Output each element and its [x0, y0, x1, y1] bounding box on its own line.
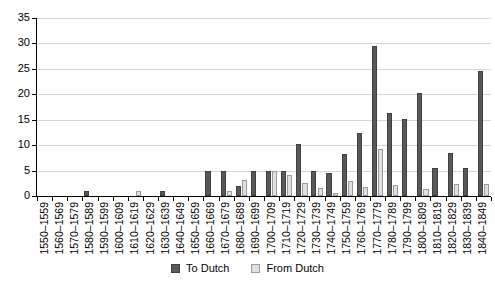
bar-from-dutch — [363, 187, 368, 196]
bar-group — [188, 18, 203, 196]
bar-from-dutch — [287, 175, 292, 196]
bar-to-dutch — [296, 144, 301, 196]
x-tick-label: 1690–1699 — [250, 202, 261, 255]
x-tick-label: 1840–1849 — [477, 202, 488, 255]
chart-legend: To DutchFrom Dutch — [0, 262, 495, 274]
bar-to-dutch — [266, 171, 271, 196]
x-tick-label: 1580–1589 — [84, 202, 95, 255]
bar-group — [203, 18, 218, 196]
x-tick-mark — [67, 197, 68, 201]
bar-group — [173, 18, 188, 196]
x-tick-mark — [340, 197, 341, 201]
bar-to-dutch — [160, 191, 165, 196]
x-tick-mark — [294, 197, 295, 201]
bar-group — [249, 18, 264, 196]
legend-label: From Dutch — [266, 262, 323, 274]
bar-to-dutch — [342, 154, 347, 196]
x-tick-mark — [249, 197, 250, 201]
bar-group — [355, 18, 370, 196]
x-tick-mark — [128, 197, 129, 201]
bar-to-dutch — [387, 113, 392, 196]
x-tick-mark — [446, 197, 447, 201]
x-tick-mark — [143, 197, 144, 201]
bar-group — [82, 18, 97, 196]
x-tick-label: 1710–1719 — [281, 202, 292, 255]
bar-group — [400, 18, 415, 196]
x-tick-mark — [173, 197, 174, 201]
x-tick-label: 1680–1689 — [235, 202, 246, 255]
bar-group — [128, 18, 143, 196]
bar-from-dutch — [454, 184, 459, 196]
legend-label: To Dutch — [186, 262, 229, 274]
y-tick-label: 15 — [4, 114, 30, 125]
bar-group — [67, 18, 82, 196]
x-tick-mark — [219, 197, 220, 201]
bar-group — [385, 18, 400, 196]
x-tick-label: 1770–1779 — [372, 202, 383, 255]
bar-group — [476, 18, 491, 196]
bar-from-dutch — [393, 185, 398, 196]
bar-group — [446, 18, 461, 196]
x-tick-mark — [203, 197, 204, 201]
bar-group — [264, 18, 279, 196]
x-tick-label: 1760–1769 — [356, 202, 367, 255]
y-tick-label: 35 — [4, 12, 30, 23]
x-tick-label: 1600–1609 — [114, 202, 125, 255]
x-tick-label: 1620–1629 — [145, 202, 156, 255]
x-tick-label: 1830–1839 — [462, 202, 473, 255]
x-tick-label: 1700–1709 — [266, 202, 277, 255]
x-tick-mark — [461, 197, 462, 201]
bar-to-dutch — [326, 173, 331, 196]
bar-from-dutch — [484, 184, 489, 196]
bar-to-dutch — [432, 168, 437, 196]
legend-item-from[interactable]: From Dutch — [251, 262, 323, 274]
x-tick-mark — [234, 197, 235, 201]
x-tick-mark — [279, 197, 280, 201]
bar-to-dutch — [357, 133, 362, 196]
x-tick-mark — [98, 197, 99, 201]
x-tick-label: 1570–1579 — [69, 202, 80, 255]
bar-to-dutch — [463, 168, 468, 196]
bar-series-layer — [37, 18, 491, 196]
y-tick-label: 0 — [4, 190, 30, 201]
y-tick-label: 30 — [4, 37, 30, 48]
x-tick-mark — [309, 197, 310, 201]
x-tick-mark — [400, 197, 401, 201]
x-tick-mark — [370, 197, 371, 201]
x-tick-mark — [188, 197, 189, 201]
bar-to-dutch — [236, 186, 241, 196]
bar-to-dutch — [311, 171, 316, 196]
bar-to-dutch — [221, 171, 226, 196]
chart-container: 05101520253035 1550–15591560–15691570–15… — [0, 0, 495, 285]
bar-group — [279, 18, 294, 196]
x-tick-label: 1590–1599 — [99, 202, 110, 255]
bar-from-dutch — [272, 171, 277, 196]
legend-item-to[interactable]: To Dutch — [171, 262, 229, 274]
bar-group — [370, 18, 385, 196]
bar-from-dutch — [423, 189, 428, 196]
bar-from-dutch — [318, 188, 323, 196]
legend-swatch-icon — [251, 264, 260, 273]
bar-group — [98, 18, 113, 196]
bar-from-dutch — [333, 193, 338, 196]
x-axis-tick-labels: 1550–15591560–15691570–15791580–15891590… — [37, 197, 491, 257]
x-tick-mark — [325, 197, 326, 201]
x-tick-label: 1610–1619 — [129, 202, 140, 255]
x-tick-mark — [52, 197, 53, 201]
bar-from-dutch — [378, 149, 383, 196]
bar-to-dutch — [251, 171, 256, 196]
y-tick-label: 5 — [4, 165, 30, 176]
bar-group — [52, 18, 67, 196]
bar-group — [340, 18, 355, 196]
x-tick-mark — [415, 197, 416, 201]
y-tick-label: 20 — [4, 88, 30, 99]
x-tick-mark — [430, 197, 431, 201]
bar-to-dutch — [281, 171, 286, 196]
x-tick-label: 1810–1819 — [432, 202, 443, 255]
bar-from-dutch — [242, 180, 247, 196]
x-tick-label: 1750–1759 — [341, 202, 352, 255]
x-tick-label: 1640–1649 — [175, 202, 186, 255]
x-tick-label: 1790–1799 — [402, 202, 413, 255]
y-tick-label: 10 — [4, 139, 30, 150]
x-tick-mark — [491, 197, 492, 201]
